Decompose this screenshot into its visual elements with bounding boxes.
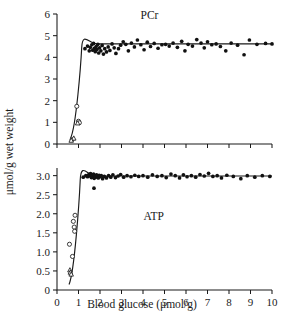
- data-point-filled: [119, 43, 123, 47]
- data-point-filled: [190, 174, 194, 178]
- axis-spines: [57, 168, 272, 290]
- data-point-filled: [253, 175, 257, 179]
- data-point-filled: [130, 41, 134, 45]
- data-point-filled: [245, 174, 249, 178]
- data-point-filled: [211, 175, 215, 179]
- data-point-filled: [111, 173, 115, 177]
- y-tick-label: 3: [45, 73, 51, 85]
- data-point-open-circle: [71, 219, 75, 223]
- x-axis-title: Blood glucose (μmol/g): [87, 298, 197, 311]
- y-tick-label: 1: [45, 116, 51, 128]
- data-point-filled: [198, 173, 202, 177]
- data-point-filled: [92, 42, 96, 46]
- fit-curve: [71, 39, 272, 138]
- data-point-open-circle: [75, 104, 79, 108]
- data-point-filled: [242, 53, 246, 57]
- x-tick-label: 7: [205, 296, 211, 308]
- panel-title-atp: ATP: [144, 210, 164, 222]
- figure-container: 0123456PCr00.51.01.52.02.53.001234567891…: [0, 0, 284, 336]
- y-tick-label: 5: [45, 30, 51, 42]
- data-point-filled: [186, 42, 190, 46]
- data-point-filled: [136, 38, 140, 42]
- data-point-filled: [183, 49, 187, 53]
- data-point-filled: [210, 43, 214, 47]
- data-point-filled: [207, 171, 211, 175]
- data-point-filled: [152, 42, 156, 46]
- data-point-filled: [268, 175, 272, 179]
- y-tick-label: 2.0: [36, 208, 50, 220]
- y-tick-label: 2: [45, 95, 51, 107]
- data-point-filled: [182, 173, 186, 177]
- data-point-filled: [164, 176, 168, 180]
- x-tick-label: 0: [54, 296, 60, 308]
- data-point-filled: [110, 42, 114, 46]
- data-point-filled: [117, 47, 121, 51]
- data-point-filled: [160, 174, 164, 178]
- data-point-filled: [202, 46, 206, 50]
- y-tick-label: 0.5: [36, 265, 50, 277]
- y-tick-label: 0: [45, 138, 51, 150]
- data-point-open-circle: [73, 229, 77, 233]
- data-point-filled: [139, 43, 143, 47]
- data-point-filled: [229, 41, 233, 45]
- data-point-filled: [145, 40, 149, 44]
- axis-spines: [57, 14, 272, 144]
- data-point-filled: [119, 173, 123, 177]
- data-point-filled: [194, 175, 198, 179]
- data-point-filled: [270, 42, 274, 46]
- data-point-filled: [214, 42, 218, 46]
- data-point-filled: [191, 44, 195, 48]
- y-tick-label: 1.5: [36, 227, 50, 239]
- data-point-filled: [219, 45, 223, 49]
- data-point-filled: [224, 49, 228, 53]
- data-point-filled: [173, 174, 177, 178]
- data-point-filled: [199, 41, 203, 45]
- data-point-filled: [92, 186, 96, 190]
- data-point-open-circle: [72, 225, 76, 229]
- data-point-filled: [149, 45, 153, 49]
- data-point-filled: [206, 40, 210, 44]
- data-point-filled: [122, 175, 126, 179]
- data-point-filled: [108, 49, 112, 53]
- data-point-filled: [176, 46, 180, 50]
- data-point-filled: [220, 176, 224, 180]
- data-point-filled: [129, 175, 133, 179]
- data-point-filled: [225, 173, 229, 177]
- data-point-filled: [112, 46, 116, 50]
- data-point-filled: [124, 42, 128, 46]
- y-tick-label: 3.0: [36, 170, 50, 182]
- data-point-filled: [202, 174, 206, 178]
- data-point-filled: [114, 52, 118, 56]
- y-tick-label: 0: [45, 284, 51, 296]
- data-point-filled: [137, 175, 141, 179]
- data-point-filled: [231, 175, 235, 179]
- panel-title-pcr: PCr: [140, 9, 158, 21]
- data-point-filled: [142, 48, 146, 52]
- y-axis-title: μmol/g wet weight: [3, 108, 16, 195]
- data-point-filled: [146, 175, 150, 179]
- data-point-filled: [103, 47, 107, 51]
- data-point-filled: [185, 175, 189, 179]
- data-point-filled: [105, 50, 109, 54]
- data-point-filled: [260, 174, 264, 178]
- x-tick-label: 1: [76, 296, 82, 308]
- data-point-filled: [127, 49, 131, 53]
- y-tick-label: 1.0: [36, 246, 50, 258]
- data-point-filled: [100, 44, 104, 48]
- data-point-filled: [155, 175, 159, 179]
- data-point-filled: [264, 42, 268, 46]
- data-point-filled: [178, 176, 182, 180]
- data-point-filled: [255, 42, 259, 46]
- data-point-filled: [169, 172, 173, 176]
- data-point-open-circle: [67, 242, 71, 246]
- panel-atp: 00.51.01.52.02.53.0012345678910ATP: [36, 168, 278, 308]
- panel-pcr: 0123456PCr: [45, 8, 274, 150]
- data-point-filled: [236, 43, 240, 47]
- data-point-filled: [156, 46, 160, 50]
- data-point-filled: [151, 173, 155, 177]
- y-tick-label: 6: [45, 8, 51, 20]
- data-point-filled: [87, 49, 91, 53]
- data-point-open-circle: [73, 213, 77, 217]
- data-point-filled: [239, 177, 243, 181]
- data-point-open-circle: [70, 254, 74, 258]
